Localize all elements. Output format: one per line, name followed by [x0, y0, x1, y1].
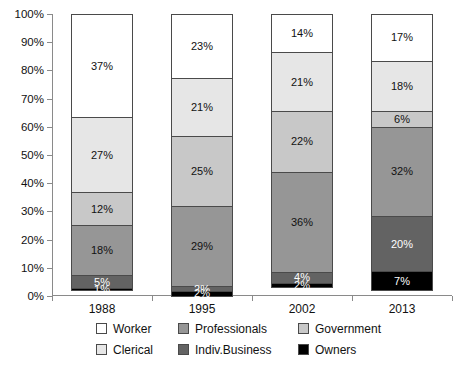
legend-label: Professionals: [195, 322, 267, 336]
y-axis-tick-label: 40%: [21, 177, 44, 189]
y-axis-tick: [47, 211, 52, 212]
y-axis-tick: [47, 70, 52, 71]
y-axis-tick-label: 30%: [21, 205, 44, 217]
bar-segment-label: 37%: [91, 61, 113, 72]
bar-segment-label: 18%: [391, 81, 413, 92]
bar-segment-label: 14%: [291, 28, 313, 39]
legend-item[interactable]: Indiv.Business: [178, 343, 298, 357]
y-axis-tick-label: 10%: [21, 262, 44, 274]
bar-segment[interactable]: 22%: [271, 111, 333, 173]
bar-segment-label: 17%: [391, 32, 413, 43]
bar-segment-label: 21%: [191, 102, 213, 113]
bar-segment-label: 36%: [291, 217, 313, 228]
x-axis-category-label: 2013: [389, 302, 416, 316]
legend-swatch-icon: [178, 323, 189, 334]
y-axis-tick: [47, 155, 52, 156]
bar-segment[interactable]: 6%: [371, 111, 433, 128]
y-axis-tick-label: 0%: [27, 290, 44, 302]
bar-segment-label: 12%: [91, 204, 113, 215]
y-axis-tick: [47, 127, 52, 128]
legend-label: Government: [315, 322, 381, 336]
bar-segment-label: 21%: [291, 77, 313, 88]
y-axis-tick: [47, 183, 52, 184]
bar-segment-label: 25%: [191, 166, 213, 177]
stacked-bar-chart: 0%10%20%30%40%50%60%70%80%90%100% 37%27%…: [0, 0, 471, 370]
bar-segment[interactable]: 18%: [71, 225, 133, 276]
y-axis-tick: [47, 240, 52, 241]
x-axis-category-label: 2002: [289, 302, 316, 316]
bar-segment-label: 32%: [391, 166, 413, 177]
y-axis-tick-label: 90%: [21, 36, 44, 48]
y-axis-tick-label: 20%: [21, 234, 44, 246]
legend-item[interactable]: Worker: [96, 322, 178, 336]
legend-label: Clerical: [113, 343, 153, 357]
bar-segment[interactable]: 32%: [371, 127, 433, 217]
y-axis-tick: [47, 42, 52, 43]
legend-swatch-icon: [178, 344, 189, 355]
x-axis-tick: [352, 296, 353, 301]
legend-label: Indiv.Business: [195, 343, 271, 357]
x-axis-category-label: 1995: [189, 302, 216, 316]
bar-segment[interactable]: 20%: [371, 216, 433, 272]
bar-segment[interactable]: 29%: [171, 206, 233, 288]
chart-legend: WorkerProfessionalsGovernmentClericalInd…: [96, 318, 416, 360]
stacked-bar[interactable]: 23%21%25%29%2%2%: [171, 14, 233, 296]
bar-segment[interactable]: 17%: [371, 14, 433, 62]
bar-segment[interactable]: 21%: [271, 52, 333, 111]
legend-swatch-icon: [96, 323, 107, 334]
y-axis-tick-label: 60%: [21, 121, 44, 133]
legend-swatch-icon: [96, 344, 107, 355]
y-axis-tick-label: 70%: [21, 93, 44, 105]
bar-segment-label: 22%: [291, 136, 313, 147]
legend-swatch-icon: [298, 323, 309, 334]
bar-segment[interactable]: 1%: [71, 288, 133, 291]
plot-area: 0%10%20%30%40%50%60%70%80%90%100% 37%27%…: [52, 14, 452, 296]
bar-segment[interactable]: 14%: [271, 14, 333, 53]
x-axis-tick: [452, 296, 453, 301]
bar-segment[interactable]: 23%: [171, 14, 233, 79]
y-axis-tick-label: 50%: [21, 149, 44, 161]
bar-segment[interactable]: 2%: [271, 283, 333, 289]
bar-segment[interactable]: 27%: [71, 117, 133, 193]
x-axis-tick: [52, 296, 53, 301]
bar-segment[interactable]: 36%: [271, 172, 333, 274]
bar-segment-label: 18%: [91, 245, 113, 256]
bar-segment-label: 29%: [191, 241, 213, 252]
legend-item[interactable]: Government: [298, 322, 408, 336]
bar-segment[interactable]: 12%: [71, 192, 133, 226]
legend-label: Owners: [315, 343, 356, 357]
x-axis-tick: [152, 296, 153, 301]
bar-segment[interactable]: 25%: [171, 136, 233, 207]
y-axis-line: [52, 14, 53, 296]
bar-segment-label: 7%: [394, 276, 410, 287]
y-axis-tick-label: 80%: [21, 64, 44, 76]
y-axis-tick: [47, 14, 52, 15]
bar-segment[interactable]: 7%: [371, 271, 433, 291]
legend-swatch-icon: [298, 344, 309, 355]
y-axis-tick-label: 100%: [15, 8, 44, 20]
stacked-bar[interactable]: 17%18%6%32%20%7%: [371, 14, 433, 296]
legend-item[interactable]: Owners: [298, 343, 408, 357]
bar-segment-label: 20%: [391, 239, 413, 250]
bar-segment[interactable]: 18%: [371, 61, 433, 112]
x-axis-tick: [252, 296, 253, 301]
bar-segment[interactable]: 2%: [171, 291, 233, 297]
legend-item[interactable]: Clerical: [96, 343, 178, 357]
bar-segment-label: 6%: [394, 114, 410, 125]
x-axis-category-label: 1988: [89, 302, 116, 316]
y-axis-tick: [47, 268, 52, 269]
stacked-bar[interactable]: 37%27%12%18%5%1%: [71, 14, 133, 296]
legend-item[interactable]: Professionals: [178, 322, 298, 336]
bar-segment-label: 23%: [191, 41, 213, 52]
bar-segment[interactable]: 5%: [71, 275, 133, 289]
bar-segment-label: 27%: [91, 150, 113, 161]
legend-label: Worker: [113, 322, 151, 336]
bar-segment[interactable]: 37%: [71, 14, 133, 118]
bar-segment[interactable]: 21%: [171, 78, 233, 137]
bar-segment-label: 5%: [94, 277, 110, 288]
stacked-bar[interactable]: 14%21%22%36%4%2%: [271, 14, 333, 296]
y-axis-tick: [47, 99, 52, 100]
